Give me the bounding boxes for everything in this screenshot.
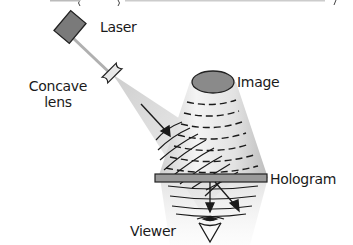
concave-lens-label: Concave lens: [28, 78, 88, 110]
diagram-canvas: [0, 0, 353, 245]
clipped-caption-fragment: [50, 0, 336, 6]
image-label: Image: [237, 74, 279, 90]
hologram-label: Hologram: [270, 171, 336, 187]
hologram-plate: [155, 174, 267, 182]
concave-lens-label-line1: Concave: [28, 78, 88, 94]
image-disk-icon: [192, 71, 234, 93]
object-light-cone: [158, 82, 268, 178]
laser-label: Laser: [100, 19, 137, 35]
viewer-label: Viewer: [130, 223, 176, 239]
concave-lens-label-line2: lens: [28, 94, 88, 110]
laser-beam: [73, 38, 112, 75]
laser-icon: [54, 11, 86, 44]
